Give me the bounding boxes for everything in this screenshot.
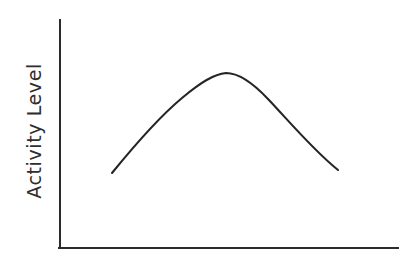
y-axis-label: Activity Level — [20, 0, 48, 262]
plot-background — [0, 0, 409, 262]
plot-area — [0, 0, 409, 262]
chart-figure: Activity Level — [0, 0, 409, 262]
